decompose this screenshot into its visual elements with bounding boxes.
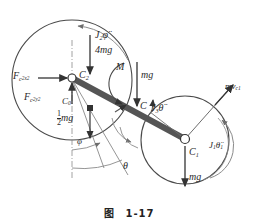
weight-mg-bottom-label: mg: [189, 172, 201, 182]
point-c2-label: C2: [79, 70, 89, 81]
figure-canvas: J2φ̈ 4mg Fc2x2 Fc2y2 C2 C0 12mg M mg C J…: [0, 0, 259, 224]
theta-arc: [72, 160, 122, 169]
force-y-label: Fc2y2: [24, 92, 40, 103]
weight-mg-mid-label: mg: [141, 70, 153, 80]
angle-theta-label: θ: [123, 161, 128, 171]
momentum-mvc1-label: mvc1: [225, 82, 241, 92]
weight-4mg-label: 4mg: [95, 45, 112, 55]
point-c1-label: C1: [189, 147, 199, 158]
force-x-label: Fc2x2: [13, 71, 29, 82]
point-c-label: C: [140, 101, 147, 111]
caption-number: 1-17: [125, 208, 154, 219]
inertia-couple-2-label: J2φ̈: [95, 30, 108, 41]
joint-c1: [181, 135, 190, 144]
figure-caption: 图1-17: [0, 205, 259, 220]
inertia-couple-3-label: J3θ̈: [151, 103, 163, 114]
point-c0-marker: [87, 105, 93, 111]
angle-phi-label: φ: [77, 137, 82, 146]
couple-M-label: M: [116, 62, 124, 72]
joint-c2: [68, 74, 76, 82]
diagram-svg: [0, 0, 259, 224]
inertia-couple-1-label: J1θ̈1: [209, 141, 223, 151]
weight-half-mg-label: 12mg: [57, 110, 73, 126]
caption-label: 图: [104, 208, 115, 219]
point-c0-label: C0: [62, 97, 71, 107]
